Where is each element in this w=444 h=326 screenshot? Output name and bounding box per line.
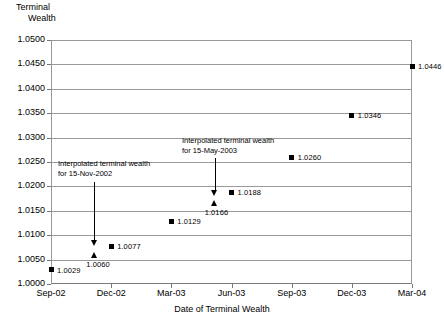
x-tick-label: Mar-03	[141, 288, 201, 298]
x-tick-mark	[352, 284, 353, 288]
y-tick-label: 1.0300	[0, 132, 45, 142]
data-point-triangle	[211, 200, 217, 206]
y-tick-label: 1.0150	[0, 205, 45, 215]
data-point-square	[169, 219, 174, 224]
data-point-label: 1.0166	[205, 208, 229, 217]
gridline	[52, 89, 411, 90]
gridline	[52, 64, 411, 65]
annot-nov-2002-line2: for 15-Nov-2002	[58, 169, 150, 179]
gridline	[52, 186, 411, 187]
annot-may-2003-line2: for 15-May-2003	[182, 146, 274, 156]
x-tick-label: Mar-04	[382, 288, 442, 298]
annot-nov-2002-arrow-head	[91, 240, 97, 246]
annot-nov-2002: Interpolated terminal wealthfor 15-Nov-2…	[58, 159, 150, 178]
y-tick-label: 1.0400	[0, 83, 45, 93]
x-tick-label: Sep-02	[21, 288, 81, 298]
y-axis-title-line2: Wealth	[14, 13, 104, 24]
annot-nov-2002-arrow-line	[94, 182, 95, 240]
data-point-square	[109, 244, 114, 249]
data-point-square	[349, 113, 354, 118]
x-tick-mark	[111, 284, 112, 288]
data-point-square	[410, 64, 415, 69]
x-tick-label: Jun-03	[202, 288, 262, 298]
y-tick-label: 1.0100	[0, 229, 45, 239]
data-point-label: 1.0077	[117, 242, 141, 251]
data-point-label: 1.0129	[177, 217, 201, 226]
annot-may-2003-arrow-head	[211, 190, 217, 196]
y-tick-label: 1.0500	[0, 34, 45, 44]
y-tick-label: 1.0050	[0, 254, 45, 264]
y-tick-label: 1.0000	[0, 278, 45, 288]
x-tick-mark	[171, 284, 172, 288]
x-tick-label: Dec-03	[322, 288, 382, 298]
y-tick-label: 1.0450	[0, 58, 45, 68]
gridline	[52, 235, 411, 236]
terminal-wealth-chart: Terminal Wealth 1.05001.04501.04001.0350…	[0, 0, 444, 326]
gridline	[52, 211, 411, 212]
data-point-label: 1.0060	[86, 260, 110, 269]
annot-may-2003-line1: Interpolated terminal wealth	[182, 136, 274, 146]
data-point-label: 1.0346	[358, 111, 382, 120]
data-point-label: 1.0029	[57, 266, 81, 275]
data-point-label: 1.0446	[418, 62, 442, 71]
data-point-square	[289, 155, 294, 160]
x-tick-label: Sep-03	[262, 288, 322, 298]
annot-nov-2002-line1: Interpolated terminal wealth	[58, 159, 150, 169]
data-point-triangle	[91, 252, 97, 258]
y-axis-title-line1: Terminal	[14, 2, 104, 13]
data-point-square	[229, 190, 234, 195]
x-tick-mark	[292, 284, 293, 288]
y-tick-label: 1.0350	[0, 107, 45, 117]
y-tick-mark	[47, 284, 51, 285]
data-point-label: 1.0260	[298, 153, 322, 162]
x-axis-title: Date of Terminal Wealth	[0, 304, 444, 314]
y-tick-label: 1.0250	[0, 156, 45, 166]
y-axis-title: Terminal Wealth	[14, 2, 104, 24]
x-tick-label: Dec-02	[81, 288, 141, 298]
annot-may-2003-arrow-line	[215, 158, 216, 190]
data-point-square	[49, 267, 54, 272]
y-tick-label: 1.0200	[0, 180, 45, 190]
x-tick-mark	[232, 284, 233, 288]
annot-may-2003: Interpolated terminal wealthfor 15-May-2…	[182, 136, 274, 155]
x-tick-mark	[412, 284, 413, 288]
data-point-label: 1.0188	[238, 188, 262, 197]
